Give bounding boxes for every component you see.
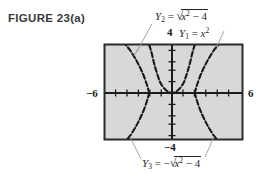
label-y1: Y1 = x2 xyxy=(179,26,209,41)
label-y-bottom-value: −4 xyxy=(164,141,176,153)
label-y3-radicand: x2 − 4 xyxy=(174,156,201,170)
label-y3: Y3 = −√x2 − 4 xyxy=(142,156,201,171)
label-y3-equals: = xyxy=(155,157,161,169)
label-x-left-value: −6 xyxy=(86,87,98,99)
leader-line-y3-left-outer xyxy=(131,139,141,159)
label-y2-radicand: x2 − 4 xyxy=(181,9,208,23)
label-y2-equals: = xyxy=(168,10,174,22)
label-y2: Y2 = √x2 − 4 xyxy=(155,9,208,24)
leader-line-y3-right-outer xyxy=(205,139,213,157)
label-y1-equals: = xyxy=(192,27,198,39)
figure-container: FIGURE 23(a) xyxy=(0,0,265,173)
graph-canvas xyxy=(0,0,265,173)
label-y1-subscript: 1 xyxy=(185,32,189,41)
label-y3-subscript: 3 xyxy=(148,162,152,171)
label-y2-subscript: 2 xyxy=(161,15,165,24)
label-y-top-value: 4 xyxy=(167,26,173,38)
label-x-right-value: 6 xyxy=(248,87,254,99)
